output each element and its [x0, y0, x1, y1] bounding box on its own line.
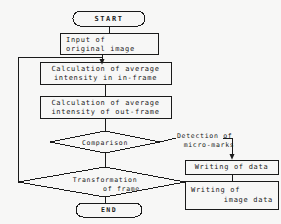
- writing-data-shape: [185, 160, 278, 174]
- end-terminator-shape: [76, 203, 142, 217]
- comparison-shape: [50, 131, 160, 153]
- calc-in-frame-shape: [40, 62, 171, 84]
- edge-detection-to-writing-data: [223, 138, 232, 157]
- transformation-shape: [18, 167, 185, 197]
- edge-comparison-to-detection: [160, 138, 176, 142]
- writing-image-data-shape: [185, 181, 278, 209]
- edge-feedback-loop: [18, 57, 102, 182]
- flowchart-canvas: START Input of original image Calculatio…: [0, 0, 281, 224]
- calc-out-frame-shape: [40, 96, 171, 118]
- input-image-shape: [60, 33, 158, 54]
- start-terminator-shape: [73, 11, 145, 26]
- flowchart-vector-layer: [0, 0, 281, 224]
